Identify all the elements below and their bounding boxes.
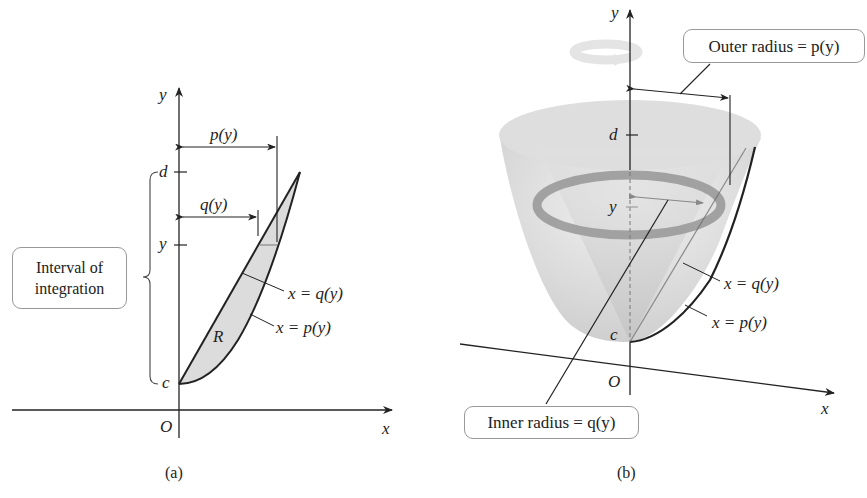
curve-p-label-b: x = p(y) <box>712 314 767 331</box>
interval-box-line2: integration <box>13 278 126 299</box>
tick-c-label-b: c <box>610 326 618 343</box>
tick-c-label: c <box>162 374 170 391</box>
outer-radius-box: Outer radius = p(y) <box>683 29 865 63</box>
x-axis-label-a: x <box>382 420 390 437</box>
tick-y-label-b: y <box>609 198 617 215</box>
x-axis-b <box>460 344 834 393</box>
curve-q-label: x = q(y) <box>288 285 343 302</box>
rotation-arrow-icon <box>574 44 638 66</box>
tick-d-label-b: d <box>609 126 618 143</box>
caption-b: (b) <box>617 465 636 481</box>
region-r-label: R <box>213 328 223 345</box>
y-axis-label-a: y <box>159 86 167 103</box>
interval-brace <box>143 172 158 384</box>
outer-leader <box>680 64 710 94</box>
y-axis-label-b: y <box>611 4 619 21</box>
curve-q-label-b: x = q(y) <box>724 275 779 292</box>
curve-p-label: x = p(y) <box>276 319 331 336</box>
p-leader <box>250 314 274 326</box>
x-axis-label-b: x <box>821 400 829 417</box>
origin-label-b: O <box>608 373 620 390</box>
caption-a: (a) <box>165 465 183 481</box>
interval-box-line1: Interval of <box>13 257 126 278</box>
p-leader-b <box>685 305 707 316</box>
p-of-y-label: p(y) <box>210 126 237 143</box>
inner-radius-box: Inner radius = q(y) <box>464 406 639 439</box>
curve-q <box>179 172 300 384</box>
q-of-y-label: q(y) <box>200 196 227 213</box>
tick-d-label: d <box>159 163 168 180</box>
diagram-canvas <box>0 0 867 498</box>
tick-y-label: y <box>159 235 167 252</box>
interval-of-integration-box: Interval of integration <box>12 247 127 309</box>
origin-label-a: O <box>160 418 172 435</box>
panel-b <box>460 10 834 404</box>
